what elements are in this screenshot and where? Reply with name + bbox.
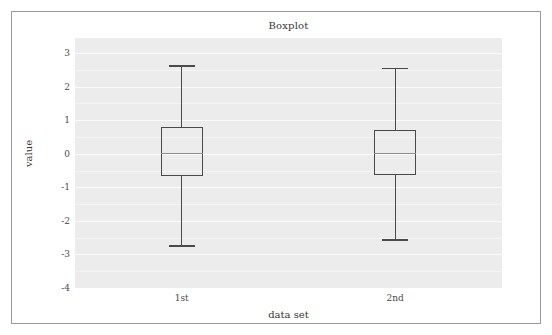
y-tick-label: -4 <box>10 283 70 293</box>
gridline-y-minor <box>75 103 502 104</box>
gridline-y <box>75 187 502 188</box>
box-iqr <box>161 127 203 176</box>
gridline-y <box>75 53 502 54</box>
gridline-y <box>75 120 502 121</box>
y-tick-label: -2 <box>10 216 70 226</box>
gridline-y-minor <box>75 271 502 272</box>
y-tick-label: -3 <box>10 249 70 259</box>
y-axis-title: value <box>23 104 34 204</box>
gridline-y-minor <box>75 137 502 138</box>
cap-upper <box>169 65 195 67</box>
x-tick-label: 2nd <box>355 293 435 303</box>
y-axis-tick-labels: 3210-1-2-3-4 <box>6 38 70 288</box>
y-tick-label: 1 <box>10 115 70 125</box>
y-tick-label: -1 <box>10 182 70 192</box>
y-tick-label: 0 <box>10 149 70 159</box>
x-axis-title: data set <box>75 309 502 320</box>
gridline-y <box>75 87 502 88</box>
figure-canvas: Boxplot 3210-1-2-3-4 1st2nd data set val… <box>0 0 552 335</box>
cap-lower <box>169 245 195 247</box>
x-tick-label: 1st <box>142 293 222 303</box>
x-axis-tick-labels: 1st2nd <box>75 293 502 307</box>
cap-upper <box>382 68 408 70</box>
y-tick-label: 2 <box>10 82 70 92</box>
gridline-y-minor <box>75 171 502 172</box>
cap-lower <box>382 239 408 241</box>
gridline-y <box>75 254 502 255</box>
chart-title: Boxplot <box>75 20 502 31</box>
gridline-y <box>75 154 502 155</box>
box-iqr <box>374 130 416 175</box>
whisker-upper <box>395 68 396 130</box>
plot-background <box>75 38 502 288</box>
whisker-lower <box>181 176 182 245</box>
gridline-y-minor <box>75 70 502 71</box>
plot-area <box>75 38 502 288</box>
boxplot-1st <box>161 38 203 288</box>
boxplot-2nd <box>374 38 416 288</box>
y-tick-label: 3 <box>10 48 70 58</box>
median-line <box>161 153 203 154</box>
whisker-upper <box>181 65 182 127</box>
whisker-lower <box>395 175 396 239</box>
gridline-y-minor <box>75 204 502 205</box>
median-line <box>374 153 416 154</box>
gridline-y <box>75 221 502 222</box>
gridline-y-minor <box>75 238 502 239</box>
